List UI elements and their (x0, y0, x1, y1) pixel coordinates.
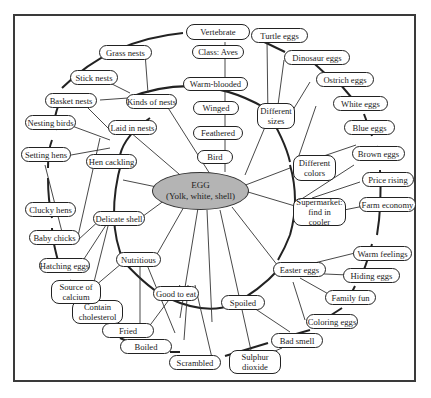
node-bird: Bird (197, 150, 233, 164)
node-different-colors: Different colors (293, 155, 336, 181)
node-winged: Winged (193, 101, 239, 115)
node-vertebrate: Vertebrate (186, 24, 250, 40)
node-farm-economy: Farm economy (359, 197, 416, 212)
node-basket-nests: Basket nests (45, 93, 97, 108)
node-family-fun: Family fun (325, 290, 376, 305)
node-bad-smell: Bad smell (271, 333, 323, 348)
node-hiding-eggs: Hiding eggs (343, 268, 400, 283)
label-line-1: Different (260, 106, 291, 116)
label-line-2: sizes (268, 116, 285, 126)
node-different-sizes: Different sizes (257, 103, 295, 129)
node-supermarket: Supermarket: find in cooler (293, 198, 346, 226)
label-line-2: dioxide (242, 362, 268, 372)
node-scrambled: Scrambled (169, 355, 221, 370)
label-line-1: Supermarket: (296, 197, 342, 207)
label-line-2: calcium (62, 292, 89, 302)
node-boiled: Boiled (120, 339, 172, 354)
node-sulphur-dioxide: Sulphur dioxide (229, 350, 281, 374)
node-turtle-eggs: Turtle eggs (251, 28, 308, 43)
node-fried: Fried (102, 323, 154, 338)
node-white-eggs: White eggs (333, 96, 388, 111)
node-coloring-eggs: Coloring eggs (306, 314, 358, 329)
label-line-2: find in cooler (298, 207, 341, 227)
node-warm-feelings: Warm feelings (353, 246, 412, 261)
center-node-egg: EGG (Yolk, white, shell) (152, 172, 249, 210)
node-ostrich-eggs: Ostrich eggs (316, 72, 374, 87)
node-class-aves: Class: Aves (192, 45, 244, 59)
node-grass-nests: Grass nests (99, 45, 152, 60)
center-title: EGG (191, 180, 210, 191)
center-subtitle: (Yolk, white, shell) (166, 191, 235, 202)
node-dinosaur-eggs: Dinosaur eggs (284, 50, 350, 65)
node-feathered: Feathered (193, 126, 243, 140)
node-delicate-shell: Delicate shell (93, 211, 145, 226)
label-line-2: colors (304, 168, 325, 178)
node-nutritious: Nutritious (116, 252, 161, 267)
node-spoiled: Spoiled (221, 295, 265, 310)
node-brown-eggs: Brown eggs (352, 146, 405, 161)
node-blue-eggs: Blue eggs (344, 120, 395, 135)
node-laid-in-nests: Laid in nests (108, 120, 157, 135)
node-easter-eggs: Easter eggs (273, 262, 326, 277)
node-stick-nests: Stick nests (70, 70, 118, 85)
node-source-of-calcium: Source of calcium (51, 280, 101, 304)
node-baby-chicks: Baby chicks (29, 230, 80, 245)
node-price-rising: Price rising (362, 172, 414, 187)
label-line-1: Sulphur (241, 352, 268, 362)
node-nesting-birds: Nesting birds (25, 115, 76, 130)
node-kinds-of-nests: Kinds of nests (126, 94, 177, 109)
node-warm-blooded: Warm-blooded (183, 77, 248, 91)
node-setting-hens: Setting hens (21, 147, 71, 162)
node-good-to-eat: Good to eat (153, 286, 199, 301)
label-line-1: Different (299, 158, 330, 168)
label-line-1: Source of (59, 282, 92, 292)
node-hen-cackling: Hen cackling (86, 154, 137, 169)
label-line-2: cholesterol (79, 312, 117, 322)
node-clucky-hens: Clucky hens (25, 202, 76, 217)
node-hatching-eggs: Hatching eggs (39, 258, 90, 273)
